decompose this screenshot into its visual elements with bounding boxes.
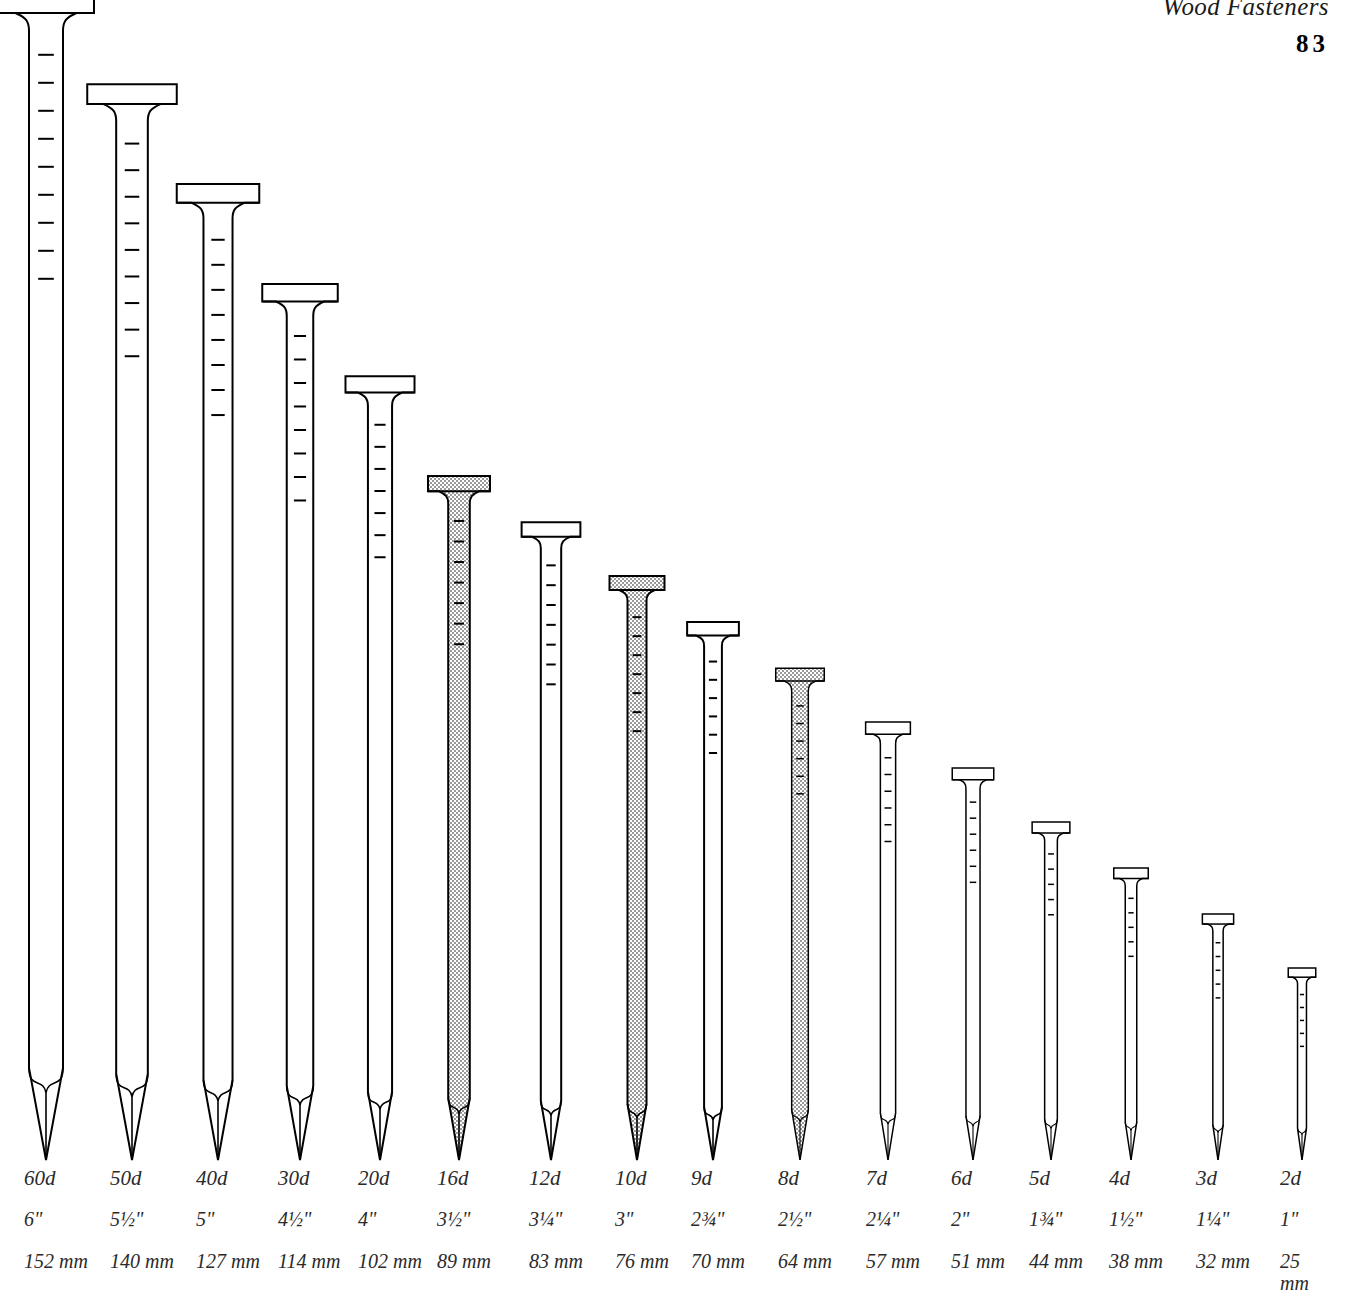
nail-length-mm: 57 mm	[866, 1250, 920, 1272]
nail-label-row: 60d6"152 mm50d5½"140 mm40d5"127 mm30d4½"…	[0, 1168, 1347, 1315]
nail-length-mm: 114 mm	[278, 1250, 340, 1272]
nail-length-inches: 4"	[358, 1209, 422, 1229]
nail-length-inches: 1¾"	[1029, 1209, 1083, 1229]
nail-label-column: 50d5½"140 mm	[110, 1168, 174, 1272]
nail-length-inches: 2½"	[778, 1209, 832, 1229]
nail-length-mm: 127 mm	[196, 1250, 260, 1272]
nail-length-mm: 140 mm	[110, 1250, 174, 1272]
nail-penny-size: 5d	[1029, 1168, 1083, 1189]
nail-5d	[1032, 822, 1070, 1160]
nail-length-inches: 4½"	[278, 1209, 340, 1229]
nail-body	[522, 522, 581, 1160]
nail-body	[1032, 822, 1070, 1160]
nail-8d	[776, 668, 825, 1160]
nail-2d	[1288, 968, 1315, 1160]
nail-penny-size: 3d	[1196, 1168, 1250, 1189]
nail-penny-size: 10d	[615, 1168, 669, 1189]
nail-length-inches: 2¼"	[866, 1209, 920, 1229]
nail-length-inches: 5½"	[110, 1209, 174, 1229]
nail-body	[262, 284, 338, 1160]
nail-label-column: 9d2¾"70 mm	[691, 1168, 745, 1272]
nail-label-column: 40d5"127 mm	[196, 1168, 260, 1272]
nail-30d	[262, 284, 338, 1160]
nail-length-mm: 70 mm	[691, 1250, 745, 1272]
nail-length-inches: 3"	[615, 1209, 669, 1229]
nail-penny-size: 20d	[358, 1168, 422, 1189]
nail-20d	[345, 376, 414, 1160]
nail-length-mm: 64 mm	[778, 1250, 832, 1272]
nail-7d	[866, 722, 911, 1160]
nail-10d	[610, 576, 665, 1160]
nail-40d	[177, 184, 260, 1160]
nail-body	[177, 184, 260, 1160]
nail-body	[1288, 968, 1315, 1160]
nail-length-mm: 89 mm	[437, 1250, 491, 1272]
nail-50d	[87, 84, 177, 1160]
nail-label-column: 2d1"25 mm	[1280, 1168, 1324, 1295]
nail-penny-size: 16d	[437, 1168, 491, 1189]
nail-label-column: 20d4"102 mm	[358, 1168, 422, 1272]
nail-9d	[687, 622, 739, 1160]
nail-12d	[522, 522, 581, 1160]
nail-label-column: 6d2"51 mm	[951, 1168, 1005, 1272]
nail-penny-size: 60d	[24, 1168, 88, 1189]
nail-60d	[0, 0, 94, 1160]
nail-length-inches: 3½"	[437, 1209, 491, 1229]
nail-penny-size: 7d	[866, 1168, 920, 1189]
nail-body	[428, 476, 490, 1160]
nail-length-mm: 83 mm	[529, 1250, 583, 1272]
nail-length-mm: 38 mm	[1109, 1250, 1163, 1272]
nail-length-inches: 1"	[1280, 1209, 1324, 1229]
page-canvas: Wood Fasteners 83 60d6"152 mm50d5½"140 m…	[0, 0, 1347, 1315]
nail-body	[1114, 868, 1149, 1160]
nail-length-inches: 3¼"	[529, 1209, 583, 1229]
nail-penny-size: 30d	[278, 1168, 340, 1189]
nail-body	[345, 376, 414, 1160]
nail-penny-size: 40d	[196, 1168, 260, 1189]
nail-length-mm: 51 mm	[951, 1250, 1005, 1272]
nail-penny-size: 50d	[110, 1168, 174, 1189]
nail-length-inches: 1½"	[1109, 1209, 1163, 1229]
nail-length-mm: 152 mm	[24, 1250, 88, 1272]
nail-body	[776, 668, 825, 1160]
nail-body	[0, 0, 94, 1160]
nail-penny-size: 8d	[778, 1168, 832, 1189]
nail-length-mm: 44 mm	[1029, 1250, 1083, 1272]
nail-length-mm: 102 mm	[358, 1250, 422, 1272]
nail-size-illustration	[0, 0, 1347, 1175]
nail-penny-size: 2d	[1280, 1168, 1324, 1189]
nail-body	[952, 768, 994, 1160]
nail-label-column: 16d3½"89 mm	[437, 1168, 491, 1272]
nail-length-mm: 76 mm	[615, 1250, 669, 1272]
nail-length-mm: 32 mm	[1196, 1250, 1250, 1272]
nail-label-column: 60d6"152 mm	[24, 1168, 88, 1272]
nail-penny-size: 9d	[691, 1168, 745, 1189]
nail-length-inches: 1¼"	[1196, 1209, 1250, 1229]
nail-length-inches: 2¾"	[691, 1209, 745, 1229]
nail-body	[1202, 914, 1233, 1160]
nail-label-column: 30d4½"114 mm	[278, 1168, 340, 1272]
nail-length-inches: 2"	[951, 1209, 1005, 1229]
nail-label-column: 5d1¾"44 mm	[1029, 1168, 1083, 1272]
nail-6d	[952, 768, 994, 1160]
nail-length-inches: 5"	[196, 1209, 260, 1229]
nail-length-mm: 25 mm	[1280, 1250, 1324, 1295]
nail-4d	[1114, 868, 1149, 1160]
nail-label-column: 8d2½"64 mm	[778, 1168, 832, 1272]
nail-body	[87, 84, 177, 1160]
nail-penny-size: 4d	[1109, 1168, 1163, 1189]
nail-label-column: 4d1½"38 mm	[1109, 1168, 1163, 1272]
nail-penny-size: 6d	[951, 1168, 1005, 1189]
nail-penny-size: 12d	[529, 1168, 583, 1189]
nail-label-column: 7d2¼"57 mm	[866, 1168, 920, 1272]
nail-diagram-svg	[0, 0, 1347, 1175]
nail-3d	[1202, 914, 1233, 1160]
nail-label-column: 12d3¼"83 mm	[529, 1168, 583, 1272]
nail-label-column: 3d1¼"32 mm	[1196, 1168, 1250, 1272]
nail-16d	[428, 476, 490, 1160]
nail-label-column: 10d3"76 mm	[615, 1168, 669, 1272]
nail-body	[866, 722, 911, 1160]
nail-length-inches: 6"	[24, 1209, 88, 1229]
nail-body	[687, 622, 739, 1160]
nail-body	[610, 576, 665, 1160]
